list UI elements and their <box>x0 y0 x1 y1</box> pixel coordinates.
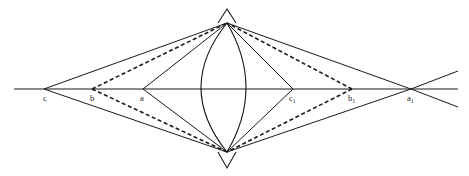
inner-solid-rays <box>143 23 293 152</box>
point-label-a: a <box>140 93 144 103</box>
upper-right-ray-extension <box>411 71 458 89</box>
lens-arcs-group <box>201 23 246 152</box>
point-label-c1: c1 <box>289 93 296 104</box>
point-label-b1: b1 <box>348 93 355 104</box>
lower-right-ray-extension <box>411 89 458 107</box>
c-to-bottom-apex <box>44 89 227 152</box>
outer-solid-rays <box>44 23 411 152</box>
geometric-diagram: cbac1b1a1 <box>0 0 469 176</box>
c1-to-top-apex <box>227 23 293 89</box>
geometric-figure-container: cbac1b1a1 <box>0 0 469 176</box>
point-label-c: c <box>43 93 47 103</box>
lens-arc-left <box>201 23 227 152</box>
a1-to-top-apex <box>227 23 411 89</box>
bottom-apex-spike <box>218 152 236 168</box>
lens-arc-right <box>227 23 246 152</box>
point-label-a1: a1 <box>407 93 414 104</box>
point-label-b: b <box>90 93 94 103</box>
a-to-bottom-apex <box>143 89 227 152</box>
top-apex-spike <box>218 9 236 23</box>
dashed-quadrilateral <box>92 23 352 152</box>
a1-to-bottom-apex <box>227 89 411 152</box>
a-to-top-apex <box>143 23 227 89</box>
point-labels-group: cbac1b1a1 <box>43 93 414 104</box>
b-to-bottom-apex <box>92 89 227 152</box>
c1-to-bottom-apex <box>227 89 293 152</box>
c-to-top-apex <box>44 23 227 89</box>
